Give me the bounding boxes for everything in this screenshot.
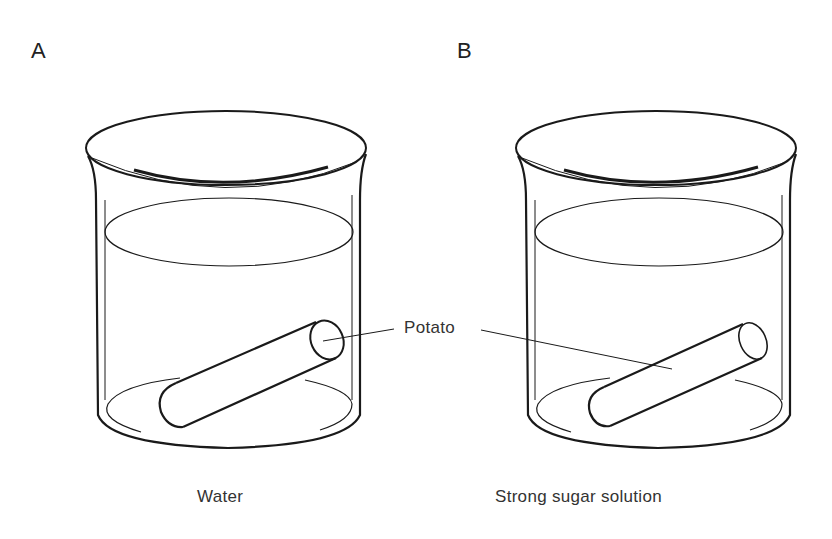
diagram-canvas: [0, 0, 832, 539]
beaker-b: [516, 111, 796, 448]
callout-line-b: [481, 330, 672, 369]
potato-a: [160, 315, 350, 427]
callout-line-a: [323, 329, 394, 341]
potato-callout-label: Potato: [404, 318, 455, 338]
caption-water: Water: [197, 487, 243, 507]
caption-strong-sugar-solution: Strong sugar solution: [495, 487, 662, 507]
beaker-a: [86, 111, 394, 448]
potato-b: [589, 318, 773, 426]
